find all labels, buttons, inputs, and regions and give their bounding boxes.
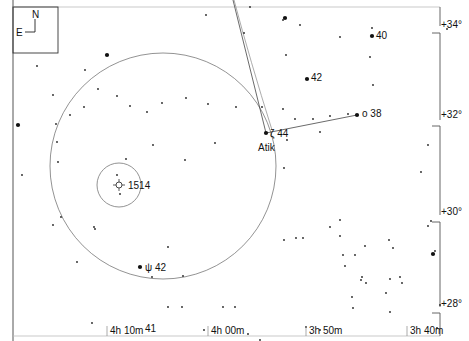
star[interactable] [152, 144, 154, 146]
star[interactable] [339, 219, 341, 221]
star[interactable] [55, 123, 57, 125]
star[interactable] [299, 24, 301, 26]
star-chart[interactable]: N E 1514 4042o 38ζ 44Atikψ 4241 +34°+32°… [0, 0, 469, 341]
star[interactable] [339, 36, 341, 38]
star[interactable] [261, 106, 263, 108]
star[interactable] [427, 144, 429, 146]
star-field [21, 6, 448, 341]
bright-star[interactable] [264, 131, 268, 135]
star[interactable] [329, 226, 331, 228]
star[interactable] [36, 65, 38, 67]
star[interactable] [342, 254, 344, 256]
bright-star[interactable] [283, 16, 287, 20]
star[interactable] [339, 235, 341, 237]
star[interactable] [351, 296, 353, 298]
star[interactable] [344, 265, 346, 267]
boundary-line [233, 0, 266, 133]
bright-star[interactable] [138, 265, 142, 269]
star[interactable] [84, 69, 86, 71]
star[interactable] [388, 239, 390, 241]
star[interactable] [203, 329, 205, 331]
star[interactable] [283, 167, 285, 169]
star[interactable] [52, 94, 54, 96]
star[interactable] [427, 225, 429, 227]
deep-sky-object-1514[interactable]: 1514 [113, 179, 151, 191]
star[interactable] [93, 226, 95, 228]
star[interactable] [312, 118, 314, 120]
star[interactable] [399, 276, 401, 278]
star[interactable] [302, 237, 304, 239]
star[interactable] [434, 250, 436, 252]
star[interactable] [116, 174, 118, 176]
star[interactable] [94, 228, 96, 230]
star[interactable] [401, 282, 403, 284]
star[interactable] [97, 88, 99, 90]
star[interactable] [205, 14, 207, 16]
star[interactable] [214, 142, 216, 144]
star[interactable] [56, 141, 58, 143]
star[interactable] [371, 27, 373, 29]
star[interactable] [286, 139, 288, 141]
star[interactable] [360, 279, 362, 281]
star[interactable] [21, 174, 23, 176]
star[interactable] [319, 131, 321, 133]
star[interactable] [185, 97, 187, 99]
star[interactable] [385, 292, 387, 294]
star[interactable] [347, 113, 349, 115]
star[interactable] [420, 171, 422, 173]
bright-star[interactable] [105, 53, 109, 57]
star[interactable] [207, 103, 209, 105]
star[interactable] [222, 306, 224, 308]
star[interactable] [76, 261, 78, 263]
star[interactable] [235, 106, 237, 108]
star[interactable] [329, 115, 331, 117]
star[interactable] [234, 306, 236, 308]
star[interactable] [167, 246, 169, 248]
star[interactable] [283, 239, 285, 241]
star-label: Atik [258, 142, 276, 153]
star[interactable] [285, 54, 287, 56]
star[interactable] [369, 56, 371, 58]
star[interactable] [57, 161, 59, 163]
star[interactable] [83, 106, 85, 108]
star[interactable] [119, 193, 121, 195]
star[interactable] [389, 311, 391, 313]
star[interactable] [249, 6, 251, 8]
star[interactable] [184, 159, 186, 161]
star[interactable] [294, 118, 296, 120]
star[interactable] [161, 102, 163, 104]
star[interactable] [372, 84, 374, 86]
star[interactable] [361, 276, 363, 278]
star[interactable] [389, 278, 391, 280]
star[interactable] [52, 224, 54, 226]
bright-star[interactable] [431, 252, 435, 256]
bright-star[interactable] [305, 77, 309, 81]
star[interactable] [392, 247, 394, 249]
compass-east: E [16, 27, 23, 38]
star[interactable] [69, 114, 71, 116]
star[interactable] [116, 95, 118, 97]
star[interactable] [151, 276, 153, 278]
star[interactable] [181, 306, 183, 308]
star[interactable] [247, 333, 249, 335]
star[interactable] [60, 216, 62, 218]
bright-star[interactable] [355, 113, 359, 117]
star[interactable] [295, 237, 297, 239]
star[interactable] [365, 282, 367, 284]
star[interactable] [282, 108, 284, 110]
star[interactable] [125, 158, 127, 160]
bright-star[interactable] [16, 123, 20, 127]
star[interactable] [430, 220, 432, 222]
star[interactable] [352, 307, 354, 309]
star[interactable] [167, 306, 169, 308]
star-label: ζ 44 [270, 128, 289, 140]
star[interactable] [354, 254, 356, 256]
star[interactable] [146, 111, 148, 113]
star[interactable] [364, 245, 366, 247]
star[interactable] [243, 32, 245, 34]
star[interactable] [129, 105, 131, 107]
boundary-curve [234, 0, 272, 130]
star[interactable] [91, 322, 93, 324]
bright-star[interactable] [370, 34, 374, 38]
star[interactable] [182, 275, 184, 277]
